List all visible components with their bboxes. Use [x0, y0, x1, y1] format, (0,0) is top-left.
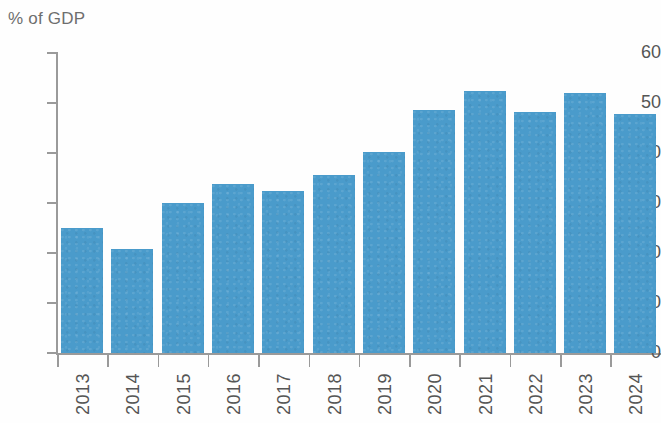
bar	[564, 93, 606, 353]
y-axis-tick-mark	[47, 152, 57, 154]
bar	[162, 203, 204, 353]
x-axis-tick-label: 2024	[626, 373, 647, 415]
bar	[614, 114, 656, 353]
bar	[363, 152, 405, 353]
x-axis-tick-label: 2013	[73, 373, 94, 415]
x-axis-tick-label: 2014	[123, 373, 144, 415]
bar	[514, 112, 556, 353]
y-axis-tick-mark	[47, 302, 57, 304]
x-axis-tick-label: 2015	[174, 373, 195, 415]
y-axis-tick-mark	[47, 352, 57, 354]
x-axis-tick-mark	[208, 354, 210, 367]
x-axis-tick-label: 2019	[375, 373, 396, 415]
bar-chart-figure: % of GDP 0102030405060 20132014201520162…	[0, 0, 661, 423]
x-axis-tick-mark	[510, 354, 512, 367]
x-axis-tick-mark	[309, 354, 311, 367]
x-axis-tick-mark	[107, 354, 109, 367]
x-axis-tick-mark	[409, 354, 411, 367]
bar	[212, 184, 254, 353]
bar	[413, 110, 455, 353]
bar	[262, 191, 304, 354]
bar	[111, 249, 153, 353]
x-axis-tick-label: 2021	[476, 373, 497, 415]
y-axis-tick-mark	[47, 102, 57, 104]
bar	[313, 175, 355, 353]
x-axis-tick-label: 2017	[274, 373, 295, 415]
x-axis-tick-label: 2016	[224, 373, 245, 415]
y-axis-tick-mark	[47, 202, 57, 204]
x-axis-tick-mark	[359, 354, 361, 367]
plot-area	[57, 53, 661, 353]
x-axis-tick-mark	[57, 354, 59, 367]
x-axis-tick-label: 2022	[526, 373, 547, 415]
x-axis-tick-mark	[459, 354, 461, 367]
x-axis-tick-mark	[560, 354, 562, 367]
bar	[61, 228, 103, 353]
bar	[464, 91, 506, 354]
x-axis-tick-mark	[258, 354, 260, 367]
y-axis-title: % of GDP	[8, 9, 85, 29]
x-axis-tick-label: 2018	[325, 373, 346, 415]
y-axis-tick-mark	[47, 252, 57, 254]
x-axis-tick-mark	[610, 354, 612, 367]
x-axis-tick-label: 2023	[576, 373, 597, 415]
y-axis-tick-mark	[47, 52, 57, 54]
x-axis-tick-label: 2020	[425, 373, 446, 415]
x-axis-tick-mark	[158, 354, 160, 367]
